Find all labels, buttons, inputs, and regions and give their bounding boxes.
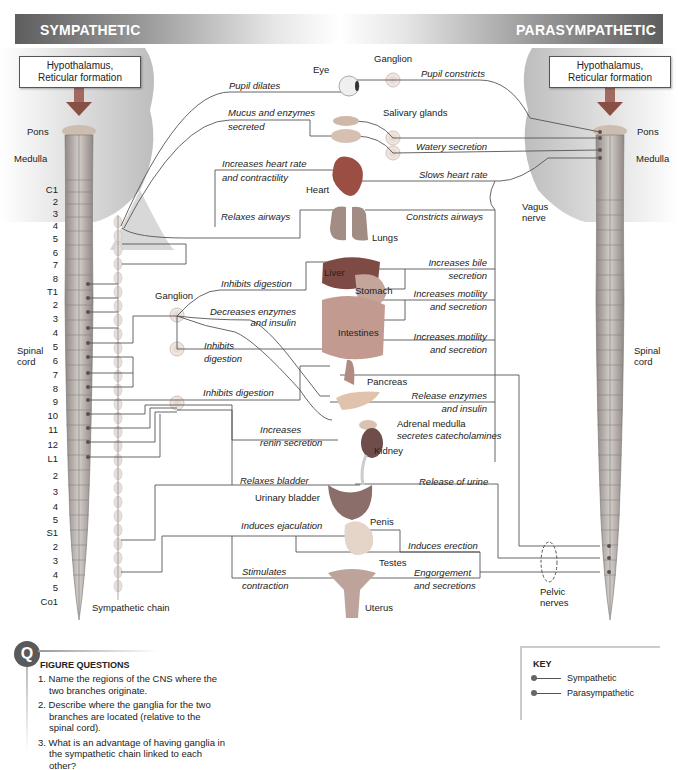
segment-t4: 4 [38,327,58,338]
segment-c6: 6 [38,247,58,258]
figure-questions-heading: FIGURE QUESTIONS [40,660,130,670]
para-heart-label: Slows heart rate [419,169,488,180]
segment-c7: 7 [38,259,58,270]
bladder-icon [328,485,372,520]
vagus-nerve-label: Vagusnerve [522,201,548,223]
segment-t2: 2 [38,299,58,310]
segment-t11: 11 [38,424,58,435]
right-spinal-cord-label: Spinalcord [634,345,660,367]
testes-label: Testes [379,557,406,568]
left-hypothalamus-box: Hypothalamus,Reticular formation [19,56,141,88]
pelvic-nerves-ellipse [541,542,557,582]
question-item: 3. What is an advantage of having gangli… [38,737,228,770]
segment-t6: 6 [38,355,58,366]
segment-t1: T1 [38,286,58,297]
para-pupil-label: Pupil constricts [421,68,485,79]
sym-contraction-label: Stimulatescontraction [242,566,288,591]
pancreas-label: Pancreas [367,376,407,387]
segment-l4: 4 [38,501,58,512]
sym-enzymes-label: Decreases enzymesand insulin [210,306,296,328]
segment-s2: 2 [38,541,58,552]
segment-t10: 10 [38,410,58,421]
parasympathetic-line-icon [533,693,561,694]
legend-box [520,646,660,720]
sym-bladder-label: Relaxes bladder [240,475,309,486]
para-bile-label: Increases bilesecretion [395,257,487,281]
segment-c2: 2 [38,196,58,207]
segment-c5: 5 [38,233,58,244]
segment-s3: 3 [38,555,58,566]
sympathetic-line-icon [533,678,561,679]
segment-l3: 3 [38,486,58,497]
question-item: 1. Name the regions of the CNS where the… [38,673,228,696]
segment-t3: 3 [38,313,58,324]
para-urine-label: Release of urine [419,476,488,487]
segment-s5: 5 [38,582,58,593]
intestines-label: Intestines [338,327,379,338]
para-engorgement-label: Engorgementand secretions [414,567,476,591]
kidney-label: Kidney [374,445,403,456]
left-pons-label: Pons [27,126,49,137]
heart-icon [332,157,363,196]
sym-airways-label: Relaxes airways [221,211,290,222]
sympathetic-chain-label: Sympathetic chain [92,602,170,613]
sym-digestion2-label: Inhibitsdigestion [204,340,242,364]
parasympathetic-ganglion-label: Ganglion [374,53,412,64]
segment-t9: 9 [38,396,58,407]
sym-digestion3-label: Inhibits digestion [203,387,274,398]
sympathetic-ganglion-label: Ganglion [155,290,193,301]
segment-c1: C1 [38,184,58,195]
heart-label: Heart [306,184,329,195]
para-pancreas-label: Release enzymesand insulin [395,390,487,414]
segment-co1: Co1 [34,596,58,607]
bladder-label: Urinary bladder [255,492,320,503]
salivary-label: Salivary glands [383,107,447,118]
adrenal-label: Adrenal medulla [397,418,466,429]
segment-c8: 8 [38,273,58,284]
pancreas-icon [336,392,380,410]
sym-heart-label: Increases heart rateand contractility [222,158,307,183]
sym-pupil-label: Pupil dilates [229,80,280,91]
segment-l1: L1 [38,453,58,464]
pelvic-nerves-label: Pelvicnerves [540,586,569,608]
question-vertical-rule [26,667,28,752]
lungs-label: Lungs [372,232,398,243]
testes-icon [344,521,373,555]
legend-title: KEY [533,659,552,669]
segment-t5: 5 [38,341,58,352]
sym-catecholamines-label: secretes catecholamines [397,430,502,441]
figure-questions-list: 1. Name the regions of the CNS where the… [38,673,228,770]
para-erection-label: Induces erection [408,540,478,551]
sym-renin-label: Increasesrenin secretion [260,424,322,448]
salivary-gland-icon [333,116,359,126]
segment-t12: 12 [38,439,58,450]
segment-s1: S1 [38,527,58,538]
sym-ejaculation-label: Induces ejaculation [241,520,322,531]
question-rule [38,650,158,652]
legend-item-sympathetic: Sympathetic [533,673,617,683]
segment-s4: 4 [38,569,58,580]
penis-label: Penis [370,516,394,527]
sym-digestion1-label: Inhibits digestion [221,278,292,289]
para-stomach-label: Increases motilityand secretion [395,288,487,312]
segment-l2: 2 [38,470,58,481]
stomach-label: Stomach [355,285,393,296]
eye-label: Eye [313,64,329,75]
right-hypothalamus-box: Hypothalamus,Reticular formation [549,56,671,88]
segment-t8: 8 [38,383,58,394]
segment-c3: 3 [38,208,58,219]
para-intestines-label: Increases motilityand secretion [395,331,487,355]
question-badge-icon: Q [14,641,40,667]
right-pons-label: Pons [637,126,659,137]
liver-label: Liver [324,267,345,278]
para-airways-label: Constricts airways [406,211,483,222]
para-watery-label: Watery secretion [416,141,487,152]
segment-l5: 5 [38,514,58,525]
legend-item-parasympathetic: Parasympathetic [533,688,634,698]
right-medulla-label: Medulla [636,153,669,164]
lungs-icon [330,207,346,241]
left-medulla-label: Medulla [14,153,47,164]
segment-t7: 7 [38,369,58,380]
sym-mucus-label: Mucus and enzymessecreted [228,107,315,132]
question-item: 2. Describe where the ganglia for the tw… [38,699,228,734]
